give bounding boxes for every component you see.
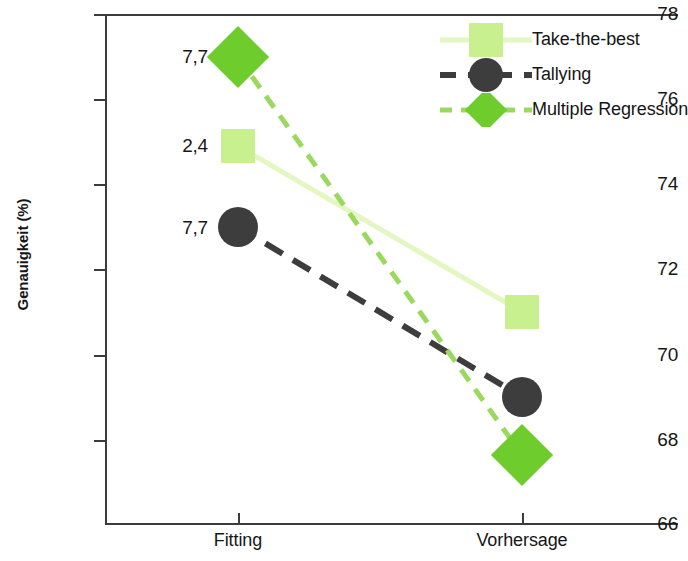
legend-label-tallying: Tallying	[532, 64, 591, 85]
y-tick-label-72: 72	[592, 258, 678, 280]
legend-key-take-the-best	[440, 23, 532, 57]
data-label-tallying-fitting: 7,7	[118, 217, 208, 239]
x-tick-label-vorhersage: Vorhersage	[412, 530, 632, 551]
legend-key-multiple-regression	[440, 93, 532, 127]
legend-item-tallying[interactable]: Tallying	[440, 57, 688, 92]
square-marker-icon	[469, 23, 503, 57]
y-axis-title: Genauigkeit (%)	[14, 155, 31, 355]
data-label-take-the-best-fitting: 2,4	[118, 135, 208, 157]
y-tick-mark-70	[94, 355, 107, 357]
legend-item-multiple-regression[interactable]: Multiple Regression	[440, 92, 688, 127]
y-tick-mark-74	[94, 184, 107, 186]
legend: Take-the-best Tallying Multiple Regressi…	[440, 22, 688, 127]
y-tick-label-68: 68	[592, 429, 678, 451]
y-tick-label-70: 70	[592, 344, 678, 366]
diamond-marker-icon	[465, 93, 507, 127]
y-tick-mark-72	[94, 269, 107, 271]
legend-item-take-the-best[interactable]: Take-the-best	[440, 22, 688, 57]
data-label-multiple-regression-fitting: 7,7	[118, 46, 208, 68]
y-tick-mark-78	[94, 14, 107, 16]
y-tick-mark-68	[94, 440, 107, 442]
circle-marker-icon	[469, 58, 503, 92]
legend-key-tallying	[440, 58, 532, 92]
x-tick-mark-vorhersage	[522, 513, 524, 525]
x-tick-label-fitting: Fitting	[128, 530, 348, 551]
legend-label-take-the-best: Take-the-best	[532, 29, 640, 50]
legend-label-multiple-regression: Multiple Regression	[532, 99, 688, 120]
y-tick-mark-76	[94, 99, 107, 101]
x-tick-mark-fitting	[238, 513, 240, 525]
y-tick-label-74: 74	[592, 173, 678, 195]
